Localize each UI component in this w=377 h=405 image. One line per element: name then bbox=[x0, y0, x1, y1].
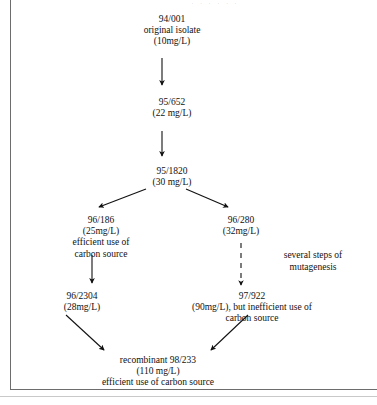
edge-951820-to-96280 bbox=[186, 189, 228, 207]
flowchart-node-94-001: 94/001 original isolate (10mg/L) bbox=[144, 14, 201, 48]
flowchart-node-96-280: 96/280 (32mg/L) bbox=[223, 215, 259, 237]
page-left-rule bbox=[10, 0, 11, 390]
edge-962304-to-98233 bbox=[66, 315, 104, 350]
flowchart-node-97-922: 97/922 (90mg/L), but inefficient use of … bbox=[168, 291, 336, 325]
scan-artifact-text: · · · · · · bbox=[115, 0, 315, 7]
edge-label-mutagenesis: several steps of mutagenesis bbox=[265, 250, 361, 273]
flowchart-node-96-186: 96/186 (25mg/L) efficient use of carbon … bbox=[73, 215, 130, 260]
flowchart-node-recombinant-98-233: recombinant 98/233 (110 mg/L) efficient … bbox=[102, 355, 214, 389]
page-bottom-rule-secondary bbox=[0, 396, 377, 397]
page-bottom-rule bbox=[10, 389, 377, 390]
flowchart-node-96-2304: 96/2304 (28mg/L) bbox=[64, 291, 100, 313]
flowchart-edges bbox=[0, 0, 377, 405]
edge-951820-to-96186 bbox=[99, 189, 146, 207]
flowchart-figure: · · · · · · 94/001 original isolate (10m… bbox=[0, 0, 377, 405]
flowchart-node-95-1820: 95/1820 (30 mg/L) bbox=[153, 166, 192, 188]
flowchart-node-95-652: 95/652 (22 mg/L) bbox=[153, 97, 192, 119]
